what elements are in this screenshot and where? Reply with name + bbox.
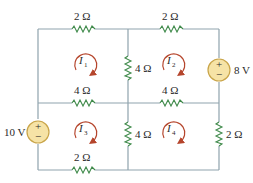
resistor-top-left-label: 2 Ω xyxy=(74,10,90,22)
resistor-mid-vertical-lower: 4 Ω xyxy=(125,122,151,146)
circuit-diagram: 2 Ω 2 Ω 4 Ω 4 Ω 2 Ω 4 Ω 4 Ω 2 Ω + − 8 V … xyxy=(0,0,253,183)
wires xyxy=(38,29,219,170)
mesh-3-sub: 3 xyxy=(84,129,88,137)
resistor-mid-horizontal-right-label: 4 Ω xyxy=(162,84,178,96)
voltage-source-left: + − 10 V xyxy=(4,120,49,143)
resistor-bottom-left-label: 2 Ω xyxy=(74,151,90,163)
resistor-right-vertical-lower-label: 2 Ω xyxy=(226,128,242,140)
resistor-mid-vertical-upper-label: 4 Ω xyxy=(135,62,151,74)
resistor-right-vertical-lower: 2 Ω xyxy=(216,122,242,146)
mesh-current-3: I 3 xyxy=(75,122,97,142)
resistor-bottom-left: 2 Ω xyxy=(72,151,95,173)
resistor-mid-vertical-upper: 4 Ω xyxy=(125,56,151,80)
mesh-current-2: I 2 xyxy=(163,54,185,74)
source-left-minus: − xyxy=(35,130,41,142)
mesh-2-sub: 2 xyxy=(172,61,176,69)
circuit-svg: 2 Ω 2 Ω 4 Ω 4 Ω 2 Ω 4 Ω 4 Ω 2 Ω + − 8 V … xyxy=(0,0,253,183)
mesh-current-4: I 4 xyxy=(163,122,185,142)
resistor-top-right: 2 Ω xyxy=(160,10,183,32)
source-left-label: 10 V xyxy=(4,126,26,138)
resistor-mid-horizontal-left: 4 Ω xyxy=(72,84,95,106)
resistor-mid-horizontal-left-label: 4 Ω xyxy=(74,84,90,96)
mesh-4-sub: 4 xyxy=(172,129,176,137)
voltage-source-right: + − 8 V xyxy=(208,58,250,81)
resistor-mid-vertical-lower-label: 4 Ω xyxy=(135,128,151,140)
source-right-label: 8 V xyxy=(234,64,250,76)
resistor-mid-horizontal-right: 4 Ω xyxy=(160,84,183,106)
mesh-1-sub: 1 xyxy=(84,61,88,69)
resistor-top-right-label: 2 Ω xyxy=(162,10,178,22)
resistor-top-left: 2 Ω xyxy=(72,10,95,32)
mesh-current-1: I 1 xyxy=(75,54,97,74)
source-right-minus: − xyxy=(216,68,222,80)
